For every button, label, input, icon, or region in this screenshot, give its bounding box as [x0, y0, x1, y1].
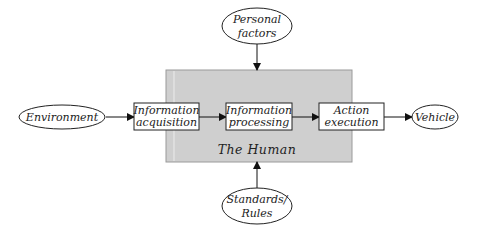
- personal-factors-line-2: factors: [237, 27, 277, 40]
- node-environment: Environment: [19, 105, 105, 129]
- node-personal-factors: Personal factors: [222, 8, 292, 44]
- standards-rules-line-1: Standards/: [227, 193, 289, 206]
- stage-information-processing: Information processing: [225, 103, 292, 130]
- environment-label: Environment: [25, 111, 99, 124]
- node-standards-rules: Standards/ Rules: [222, 188, 292, 224]
- processing-line-2: processing: [229, 116, 290, 129]
- stage-action-execution: Action execution: [319, 103, 384, 130]
- vehicle-label: Vehicle: [415, 111, 456, 124]
- human-container-label: The Human: [218, 142, 297, 157]
- action-line-2: execution: [324, 116, 378, 129]
- standards-rules-line-2: Rules: [240, 207, 272, 220]
- personal-factors-line-1: Personal: [232, 13, 282, 26]
- node-vehicle: Vehicle: [412, 105, 458, 129]
- acquisition-line-2: acquisition: [136, 116, 197, 129]
- human-model-diagram: The Human Personal factors Standards/ Ru…: [0, 0, 477, 235]
- stage-information-acquisition: Information acquisition: [132, 103, 199, 130]
